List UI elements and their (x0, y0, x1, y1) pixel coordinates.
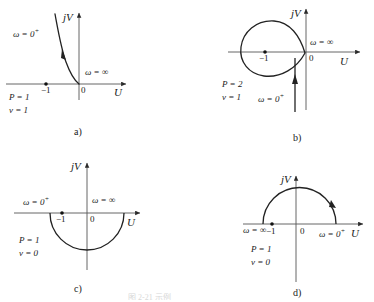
panel-a-origin-label: 0 (81, 86, 86, 95)
panel-d-omega-zero-label: ω = 0+ (319, 228, 345, 239)
panel-b-param-p: P = 2 (222, 80, 242, 89)
panel-d-label: d) (293, 288, 301, 298)
panel-b-real-axis-label: U (340, 56, 348, 67)
panel-b-omega-infinity-label: ω = ∞ (310, 38, 333, 47)
panel-d-direction-arrow (329, 200, 336, 208)
panel-d-real-axis-label: U (351, 228, 359, 239)
panel-a-param-v: ν = 1 (9, 106, 28, 115)
panel-c-label: c) (74, 284, 82, 294)
panel-d-origin-label: 0 (300, 227, 305, 236)
panel-c-minus-one-label: −1 (56, 215, 66, 224)
panel-d-imag-axis-label: jV (281, 174, 291, 185)
panel-c-param-v: ν = 0 (19, 249, 38, 258)
panel-a-graphics (6, 13, 126, 100)
panel-a-omega-infinity-label: ω = ∞ (85, 68, 108, 77)
panel-d-omega-infinity-label: ω = ∞ (243, 226, 266, 235)
panel-a-direction-arrow (61, 49, 66, 60)
panel-c-omega-zero-label: ω = 0+ (23, 196, 49, 207)
panel-a-real-axis-label: U (114, 87, 122, 98)
panel-c-omega-infinity-label: ω = ∞ (92, 196, 115, 205)
panel-c-origin-label: 0 (90, 215, 95, 224)
panel-b-direction-arrow (292, 74, 298, 84)
panel-b-minus-one-label: −1 (259, 54, 269, 63)
panel-c-param-p: P = 1 (19, 236, 39, 245)
figure-root: ω = 0+ ω = ∞ −1 0 U jV P = 1 ν = 1 a) ω … (0, 0, 374, 302)
panel-a-param-p: P = 1 (9, 93, 29, 102)
panel-c-real-axis-label: U (127, 217, 135, 228)
panel-a-imag-axis-label: jV (63, 12, 73, 23)
panel-a-nyquist-curve (55, 14, 79, 84)
panel-d-minus-one-label: −1 (266, 227, 276, 236)
panel-d-param-p: P = 1 (251, 245, 271, 254)
panel-b-omega-zero-label: ω = 0+ (258, 93, 284, 104)
figure-caption: 图 2-21 示例 (128, 291, 248, 300)
panel-a-minus-one-label: −1 (41, 86, 51, 95)
panel-c-imag-axis-label: jV (71, 161, 81, 172)
panel-b-imag-axis-label: jV (291, 8, 301, 19)
panel-d-nyquist-semicircle (263, 188, 336, 225)
panel-a-label: a) (74, 127, 82, 137)
panel-b-origin-label: 0 (309, 54, 314, 63)
panel-d-param-v: ν = 0 (251, 258, 270, 267)
panel-a-omega-zero-label: ω = 0+ (13, 28, 39, 39)
panel-b-param-v: ν = 1 (222, 93, 241, 102)
panel-b-label: b) (293, 133, 301, 143)
